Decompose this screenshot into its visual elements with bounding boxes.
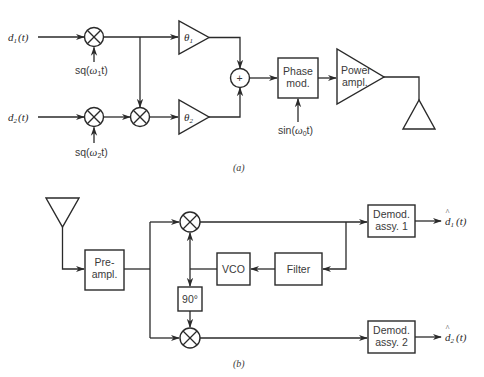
theta2-to-summer-line [209,88,240,117]
input-d1-label: d1(t) [8,31,29,45]
lower-mixer-icon [180,328,200,348]
preamp-block: Pre- ampl. [85,250,124,290]
svg-text:Filter: Filter [287,263,311,275]
vco-block: VCO [217,253,250,285]
filter-block: Filter [275,253,322,285]
svg-text:assy. 1: assy. 1 [375,220,408,232]
svg-text:Pre-: Pre- [95,256,115,268]
svg-text:d2(t): d2(t) [445,331,467,345]
mixer-3-icon [131,108,150,127]
svg-text:Phase: Phase [283,65,313,77]
antenna-to-preamp-line [63,227,85,269]
part-a-transmitter: d1(t) sq(ω1t) d2(t) sq(ω2t) [8,21,435,174]
svg-text:ampl.: ampl. [342,76,368,88]
caption-b: (b) [233,358,245,370]
phase-shift-90-block: 90° [178,287,202,311]
demod-assy-2-block: Demod. assy. 2 [368,321,415,353]
mixer-1-icon [85,28,104,47]
sq1-label: sq(ω1t) [75,64,108,77]
svg-text:Demod.: Demod. [373,324,410,336]
part-b-receiver: Pre- ampl. 90° VC [46,198,467,370]
svg-text:VCO: VCO [222,263,245,275]
svg-text:Demod.: Demod. [373,208,410,220]
svg-text:assy. 2: assy. 2 [375,336,408,348]
demod-assy-1-block: Demod. assy. 1 [368,205,415,237]
rx-antenna-icon [46,198,79,227]
tx-antenna-icon [403,100,435,129]
sin-carrier-label: sin(ω0t) [278,124,313,137]
svg-text:+: + [237,72,243,84]
svg-text:d1(t): d1(t) [445,215,467,229]
mixer-2-icon [85,108,104,127]
input-d2-label: d2(t) [8,111,29,125]
theta1-to-summer-line [209,38,240,69]
svg-text:90°: 90° [182,293,198,305]
caption-a: (a) [233,162,245,174]
summer-icon: + [231,69,250,88]
poweramp-to-antenna-line [384,77,419,100]
power-amp-block: Power ampl. [337,49,384,104]
svg-text:mod.: mod. [286,77,309,89]
output-d2hat-label: ^ d2(t) [445,324,467,345]
feedback-to-filter-line [323,222,346,269]
block-diagram: d1(t) sq(ω1t) d2(t) sq(ω2t) [0,0,484,377]
upper-mixer-icon [180,212,200,232]
output-d1hat-label: ^ d1(t) [445,208,467,229]
sq2-label: sq(ω2t) [75,146,108,159]
phase-mod-block: Phase mod. [278,58,318,98]
gain-theta2-icon: θ2 [179,100,209,134]
gain-theta1-icon: θ1 [179,21,209,54]
svg-text:ampl.: ampl. [92,268,118,280]
svg-text:Power: Power [341,64,371,76]
